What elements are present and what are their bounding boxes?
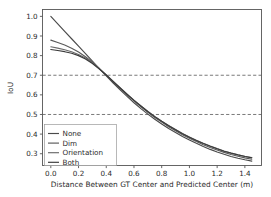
y-tick-label: 0.7 bbox=[26, 71, 37, 80]
x-tick-label: 1.2 bbox=[211, 169, 222, 178]
chart-background bbox=[0, 0, 271, 197]
legend-label-orientation: Orientation bbox=[63, 148, 104, 157]
line-chart: 0.00.20.40.60.81.01.21.4 0.30.40.50.60.7… bbox=[0, 0, 271, 197]
y-tick-label: 0.9 bbox=[26, 32, 38, 41]
x-tick-label: 0.6 bbox=[128, 169, 140, 178]
y-tick-label: 0.3 bbox=[26, 149, 37, 158]
legend[interactable]: NoneDimOrientationBoth bbox=[45, 125, 117, 167]
legend-label-both: Both bbox=[63, 158, 80, 167]
y-tick-label: 0.8 bbox=[26, 51, 38, 60]
x-axis-title: Distance Between GT Center and Predicted… bbox=[51, 180, 254, 189]
legend-label-none: None bbox=[63, 129, 82, 138]
y-tick-label: 0.5 bbox=[26, 110, 37, 119]
x-tick-label: 0.0 bbox=[45, 169, 57, 178]
y-tick-label: 0.4 bbox=[26, 130, 38, 139]
x-tick-label: 0.8 bbox=[156, 169, 168, 178]
x-tick-label: 1.4 bbox=[239, 169, 251, 178]
y-tick-label: 1.0 bbox=[26, 12, 38, 21]
figure-canvas: 0.00.20.40.60.81.01.21.4 0.30.40.50.60.7… bbox=[0, 0, 271, 197]
y-tick-label: 0.6 bbox=[26, 90, 38, 99]
y-axis-title: IoU bbox=[6, 82, 15, 94]
x-tick-label: 0.2 bbox=[73, 169, 84, 178]
x-tick-label: 0.4 bbox=[101, 169, 113, 178]
legend-label-dim: Dim bbox=[63, 139, 78, 148]
x-tick-label: 1.0 bbox=[184, 169, 196, 178]
